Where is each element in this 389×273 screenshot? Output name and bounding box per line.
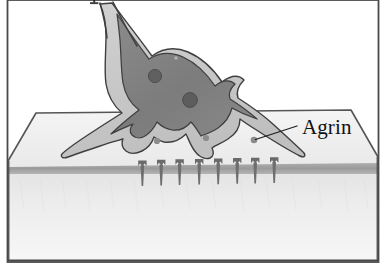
- agrin-neuromuscular-junction-diagram: Agrin: [0, 0, 389, 273]
- figure-container: Agrin: [0, 0, 389, 273]
- agrin-particle: [203, 135, 209, 141]
- membrane-highlight-speck: [174, 56, 178, 60]
- agrin-particle: [154, 138, 160, 144]
- agrin-particle: [251, 137, 258, 144]
- muscle-front-face: [8, 174, 378, 261]
- synaptic-vesicle: [148, 69, 161, 82]
- synaptic-vesicle: [183, 93, 198, 108]
- agrin-label: Agrin: [302, 115, 352, 139]
